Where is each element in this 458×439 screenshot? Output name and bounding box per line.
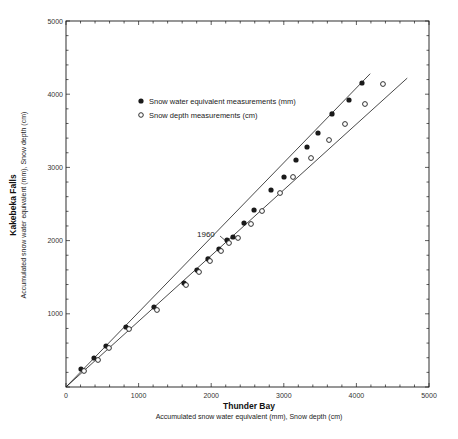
data-point xyxy=(346,97,351,102)
data-point xyxy=(304,144,309,149)
data-point xyxy=(327,138,332,143)
plot-border xyxy=(66,21,429,387)
data-point xyxy=(208,259,213,264)
data-point xyxy=(82,369,87,374)
data-point xyxy=(251,207,256,212)
x-axis-title: Thunder Bay xyxy=(223,401,275,411)
data-point xyxy=(309,156,314,161)
y-axis-title: Kakebeka Falls xyxy=(8,174,18,236)
data-point xyxy=(219,249,224,254)
data-point xyxy=(236,236,241,241)
legend-marker-open-icon xyxy=(139,113,144,118)
y-tick-label: 4000 xyxy=(47,91,63,98)
data-point xyxy=(363,102,368,107)
x-tick-label: 1000 xyxy=(131,392,147,399)
data-point xyxy=(107,346,112,351)
data-point xyxy=(293,157,298,162)
data-point xyxy=(268,187,273,192)
legend: Snow water equivalent measurements (mm) … xyxy=(138,97,296,120)
data-point xyxy=(278,191,283,196)
data-point xyxy=(260,209,265,214)
x-tick-label: 0 xyxy=(64,392,68,399)
data-point xyxy=(329,111,334,116)
x-tick-label: 3000 xyxy=(276,392,292,399)
x-tick-label: 2000 xyxy=(203,392,219,399)
legend-marker-filled-icon xyxy=(138,98,143,103)
fit-line xyxy=(66,78,407,387)
data-point xyxy=(291,175,296,180)
x-tick-label: 5000 xyxy=(421,392,437,399)
data-point xyxy=(96,358,101,363)
y-tick-label: 2000 xyxy=(47,237,63,244)
annotation-label: 1960 xyxy=(197,230,215,239)
annotation-1960: 1960 xyxy=(197,230,227,242)
scatter-chart: 0100020003000400050001000200030004000500… xyxy=(0,0,458,439)
y-axis-subtitle: Accumulated snow water equivalent (mm), … xyxy=(20,112,28,299)
data-points xyxy=(78,80,385,373)
x-tick-label: 4000 xyxy=(349,392,365,399)
data-point xyxy=(315,130,320,135)
data-point xyxy=(281,174,286,179)
y-tick-label: 1000 xyxy=(47,310,63,317)
data-point xyxy=(241,220,246,225)
axis-ticks: 0100020003000400050001000200030004000500… xyxy=(47,18,436,400)
fit-lines xyxy=(66,74,407,387)
data-point xyxy=(197,270,202,275)
legend-label-depth: Snow depth measurements (cm) xyxy=(149,111,258,120)
data-point xyxy=(359,80,364,85)
legend-label-swe: Snow water equivalent measurements (mm) xyxy=(149,97,296,106)
data-point xyxy=(343,122,348,127)
data-point xyxy=(230,234,235,239)
fit-line xyxy=(66,74,370,387)
data-point xyxy=(184,283,189,288)
data-point xyxy=(249,222,254,227)
data-point xyxy=(127,327,132,332)
x-axis-subtitle: Accumulated snow water equivalent (mm), … xyxy=(156,413,343,421)
y-tick-label: 5000 xyxy=(47,18,63,25)
data-point xyxy=(227,241,232,246)
plot-frame xyxy=(66,21,429,387)
y-tick-label: 3000 xyxy=(47,164,63,171)
data-point xyxy=(155,308,160,313)
data-point xyxy=(381,82,386,87)
